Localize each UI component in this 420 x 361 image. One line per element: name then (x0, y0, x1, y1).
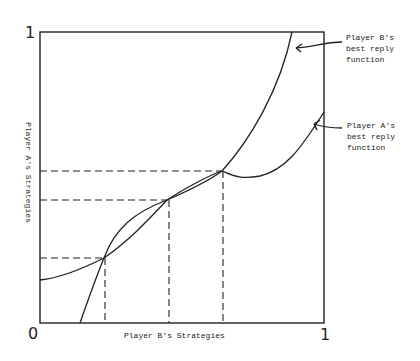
equilibrium-guides (40, 171, 223, 323)
b-annotation-arrow (296, 42, 342, 48)
player-b-best-reply-curve (80, 32, 292, 323)
x-max-label: 1 (320, 325, 330, 344)
y-axis-label: Player A's Strategies (24, 122, 33, 223)
a-annotation-line3: function (347, 143, 386, 152)
a-annotation-line1: Player A's (347, 121, 395, 130)
origin-label: 0 (28, 324, 38, 343)
b-annotation-line1: Player B's (346, 33, 394, 42)
b-annotation-line2: best reply (346, 44, 394, 53)
y-max-label: 1 (25, 23, 35, 42)
plot-frame (40, 32, 324, 323)
x-axis-label: Player B's Strategies (124, 331, 225, 340)
b-annotation-line3: function (346, 55, 385, 64)
a-annotation-arrow (314, 124, 342, 128)
a-annotation-line2: best reply (347, 132, 395, 141)
player-a-best-reply-curve (40, 112, 324, 280)
best-reply-diagram: Player B's best reply function Player A'… (0, 0, 420, 361)
